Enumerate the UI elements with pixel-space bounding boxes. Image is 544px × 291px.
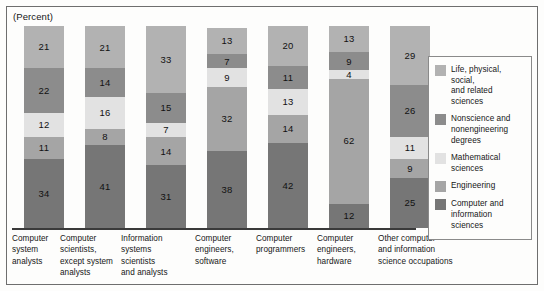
legend-label-line: Computer and information [451, 199, 526, 220]
bar-segment-value: 11 [283, 73, 293, 83]
category-label-line: analysts [60, 267, 122, 278]
bar-segment[interactable]: 21 [85, 26, 125, 68]
bar-segment-value: 14 [100, 78, 111, 88]
bar-segment-value: 12 [344, 211, 355, 221]
stacked-bar: 292611925 [390, 26, 430, 228]
bar-segment-value: 9 [346, 57, 351, 67]
bar-segment[interactable]: 25 [390, 178, 430, 229]
stacked-bar: 211416841 [85, 26, 125, 228]
bar-segment[interactable]: 21 [24, 26, 64, 68]
axis-unit-label: (Percent) [13, 11, 53, 22]
bar-segment[interactable]: 7 [146, 123, 186, 137]
bar-segment[interactable]: 29 [390, 26, 430, 85]
bar-segment[interactable]: 31 [146, 165, 186, 228]
legend-swatch-icon [435, 181, 446, 192]
bar-segment[interactable]: 41 [85, 145, 125, 228]
category-label-line: software [195, 256, 256, 267]
category-label-line: analysts [12, 256, 60, 267]
bar-segment[interactable]: 13 [329, 26, 369, 52]
bar-segment-value: 21 [100, 43, 111, 53]
bar-segment-value: 15 [161, 103, 172, 113]
bar-segment-value: 13 [222, 36, 233, 46]
bar-segment[interactable]: 38 [207, 151, 247, 228]
plot-area: 2122121134211416841331571431137932382011… [12, 26, 416, 228]
category-label-line: and analysts [121, 267, 195, 278]
legend-item[interactable]: Computer and informationsciences [435, 199, 526, 231]
bar-column[interactable]: 331571431 [146, 26, 186, 228]
legend-label-line: Mathematical sciences [451, 153, 526, 174]
bar-segment[interactable]: 13 [207, 28, 247, 54]
category-label-line: Computer [12, 233, 60, 244]
bar-segment-value: 34 [39, 189, 50, 199]
legend-item[interactable]: Nonscience andnonengineering degrees [435, 114, 526, 146]
bar-segment[interactable]: 12 [24, 113, 64, 137]
bar-segment[interactable]: 9 [390, 159, 430, 177]
category-label-line: except system [60, 256, 122, 267]
legend-label-line: Nonscience and [451, 114, 526, 125]
category-label-line: programmers [256, 244, 317, 255]
category-label-line: Computer scientists, [60, 233, 122, 256]
bar-segment[interactable]: 9 [207, 68, 247, 86]
bar-column[interactable]: 2122121134 [24, 26, 64, 228]
chart-legend: Life, physical, social,and related scien… [428, 56, 532, 240]
bar-segment-value: 25 [405, 198, 416, 208]
bar-segment[interactable]: 14 [146, 137, 186, 165]
legend-item[interactable]: Engineering [435, 181, 526, 192]
category-label-line: Information systems [121, 233, 195, 256]
stacked-bar: 13793238 [207, 28, 247, 228]
category-label: Computerengineers,software [195, 233, 256, 267]
bar-segment[interactable]: 34 [24, 159, 64, 228]
bar-segment[interactable]: 13 [268, 89, 308, 115]
bar-segment[interactable]: 8 [85, 129, 125, 145]
bar-segment-value: 21 [39, 42, 50, 52]
bar-segment[interactable]: 33 [146, 26, 186, 93]
category-label: Computerengineers,hardware [317, 233, 378, 267]
bar-segment-value: 42 [283, 181, 294, 191]
bar-segment[interactable]: 22 [24, 68, 64, 112]
bar-column[interactable]: 13946212 [329, 26, 369, 228]
bar-column[interactable]: 2011131442 [268, 26, 308, 228]
bar-segment-value: 22 [39, 86, 50, 96]
legend-item-label: Engineering [451, 181, 495, 192]
bar-segment[interactable]: 11 [24, 137, 64, 159]
bar-segment-value: 41 [100, 182, 111, 192]
bar-segment[interactable]: 42 [268, 143, 308, 228]
bar-segment[interactable]: 62 [329, 79, 369, 204]
bar-segment-value: 12 [39, 120, 50, 130]
bar-segment[interactable]: 26 [390, 85, 430, 138]
category-label-line: Computer [317, 233, 378, 244]
bar-segment-value: 62 [344, 136, 355, 146]
category-label: Computersystemanalysts [12, 233, 60, 267]
bar-segment[interactable]: 11 [390, 137, 430, 159]
bar-segment[interactable]: 12 [329, 204, 369, 228]
legend-item-label: Nonscience andnonengineering degrees [451, 114, 526, 146]
bar-segment[interactable]: 9 [329, 52, 369, 70]
category-label-line: and information [378, 244, 456, 255]
bar-column[interactable]: 13793238 [207, 28, 247, 228]
stacked-bar: 2011131442 [268, 26, 308, 228]
bar-segment[interactable]: 14 [85, 68, 125, 96]
bar-segment[interactable]: 32 [207, 87, 247, 152]
bar-segment[interactable]: 4 [329, 70, 369, 78]
bar-segment[interactable]: 15 [146, 93, 186, 123]
bar-column[interactable]: 292611925 [390, 26, 430, 228]
bar-segment-value: 38 [222, 185, 233, 195]
bar-segment[interactable]: 20 [268, 26, 308, 66]
legend-item-label: Mathematical sciences [451, 153, 526, 174]
category-label-line: scientists [121, 256, 195, 267]
bar-segment[interactable]: 16 [85, 97, 125, 129]
category-label-line: hardware [317, 256, 378, 267]
bar-segment-value: 13 [344, 34, 355, 44]
legend-label-line: Engineering [451, 181, 495, 192]
bar-segment-value: 33 [161, 55, 172, 65]
legend-item[interactable]: Life, physical, social,and related scien… [435, 65, 526, 107]
bar-segment-value: 14 [161, 147, 172, 157]
legend-item-label: Life, physical, social,and related scien… [451, 65, 526, 107]
stacked-bar-chart-figure: (Percent) 212212113421141684133157143113… [0, 0, 544, 291]
bar-column[interactable]: 211416841 [85, 26, 125, 228]
bar-segment-value: 9 [407, 164, 412, 174]
bar-segment[interactable]: 7 [207, 54, 247, 68]
bar-segment[interactable]: 14 [268, 115, 308, 143]
bar-segment[interactable]: 11 [268, 66, 308, 88]
legend-item[interactable]: Mathematical sciences [435, 153, 526, 174]
